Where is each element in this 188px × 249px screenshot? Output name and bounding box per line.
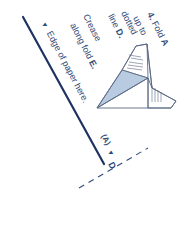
paper-edge-line: [23, 17, 104, 164]
fold-diagram: [97, 44, 176, 108]
fold-shaded-panel: [97, 70, 148, 108]
fold-instruction-panel: 4. Fold A up to dotted line D. Crease al…: [0, 0, 188, 249]
svg-text:4. Fold A: 4. Fold A: [145, 10, 171, 48]
fold-a-marker-icon: ▼: [106, 148, 115, 157]
fold-d-label: D: [106, 160, 118, 171]
edge-marker-icon: ▼: [40, 20, 49, 29]
fold-a-label: (A): [99, 133, 112, 147]
instruction-text: 4. Fold A up to dotted line D. Crease al…: [68, 9, 171, 70]
